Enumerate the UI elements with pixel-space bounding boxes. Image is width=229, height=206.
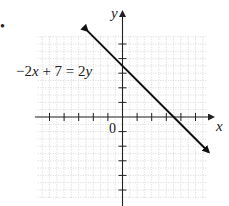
bullet-marker: •: [0, 19, 5, 34]
equation-line: [87, 31, 208, 152]
plotted-line: [87, 31, 208, 152]
axes: [35, 12, 213, 206]
coordinate-graph: • y x 0 −2x + 7 = 2y: [0, 0, 229, 206]
x-axis-label: x: [215, 118, 223, 134]
y-axis-label: y: [109, 5, 118, 21]
equation-label: −2x + 7 = 2y: [16, 63, 93, 79]
origin-label: 0: [109, 121, 116, 136]
